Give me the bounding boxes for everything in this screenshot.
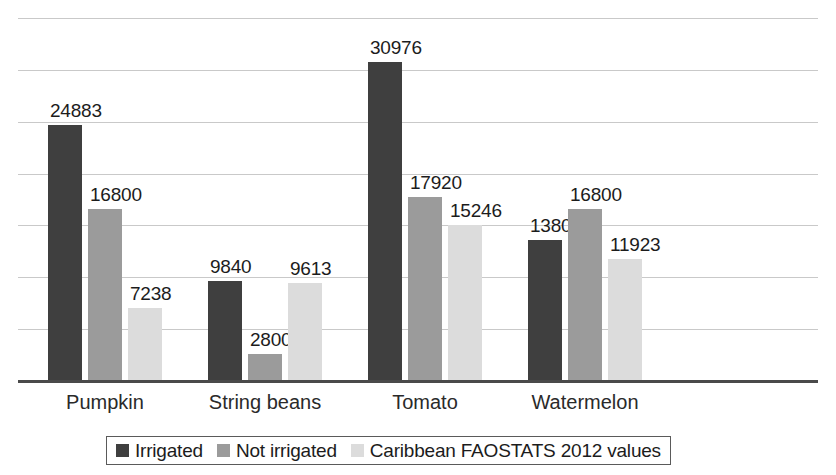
- legend-label: Irrigated: [135, 441, 203, 461]
- category-label: Pumpkin: [66, 391, 144, 413]
- bar: [608, 259, 642, 383]
- bar-value-label: 24883: [50, 101, 102, 120]
- legend-item[interactable]: Caribbean FAOSTATS 2012 values: [351, 441, 661, 461]
- bar: [568, 209, 602, 383]
- gridline: [18, 18, 818, 19]
- bar-value-label: 16800: [570, 185, 622, 204]
- legend-swatch-icon: [351, 444, 364, 457]
- bar: [528, 240, 562, 383]
- legend-item[interactable]: Not irrigated: [217, 441, 337, 461]
- category-label: Tomato: [392, 391, 458, 413]
- legend-swatch-icon: [116, 444, 129, 457]
- legend-swatch-icon: [217, 444, 230, 457]
- bar-value-label: 15246: [450, 201, 502, 220]
- bar: [408, 197, 442, 383]
- bar-value-label: 9840: [210, 257, 251, 276]
- legend-label: Not irrigated: [236, 441, 337, 461]
- bar: [248, 354, 282, 383]
- bar: [88, 209, 122, 383]
- legend-label: Caribbean FAOSTATS 2012 values: [370, 441, 661, 461]
- bar-value-label: 16800: [90, 185, 142, 204]
- bar-value-label: 2800: [250, 330, 291, 349]
- bar-value-label: 17920: [410, 173, 462, 192]
- bar: [448, 225, 482, 383]
- bar: [48, 125, 82, 383]
- chart-legend: IrrigatedNot irrigatedCaribbean FAOSTATS…: [106, 436, 671, 465]
- gridline: [18, 70, 818, 71]
- category-label: Watermelon: [531, 391, 638, 413]
- plot-area: 2488316800723898402800961330976179201524…: [18, 18, 818, 383]
- bar: [128, 308, 162, 383]
- bar-value-label: 7238: [130, 284, 171, 303]
- bar-value-label: 11923: [610, 235, 660, 254]
- bar-chart: 2488316800723898402800961330976179201524…: [0, 0, 836, 475]
- x-axis-line: [18, 380, 818, 383]
- bar-value-label: 9613: [290, 259, 331, 278]
- gridline: [18, 122, 818, 123]
- bar: [288, 283, 322, 383]
- category-label: String beans: [209, 391, 321, 413]
- bar: [208, 281, 242, 383]
- bar-value-label: 30976: [370, 38, 422, 57]
- legend-item[interactable]: Irrigated: [116, 441, 203, 461]
- bar: [368, 62, 402, 383]
